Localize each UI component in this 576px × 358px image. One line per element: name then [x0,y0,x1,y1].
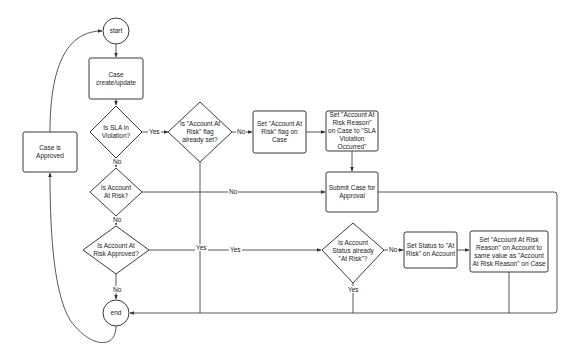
is-at-risk-approved-label: Is Account At Risk Approved? [93,238,139,262]
edge-label-status-yes: Yes [347,286,360,293]
set-flag-on-case-label: Set "Account At Risk" flag on Case [255,113,304,151]
edge-label-atrisk-no-down: No [112,216,122,223]
edge-label-approved-no: No [112,286,122,293]
case-create-update-label: Case create/update [91,60,141,97]
edge-label-flag-no: No [236,128,246,135]
edge-label-atrisk-no: No [228,188,238,195]
flowchart-canvas [0,0,576,358]
edge-label-status-no: No [388,246,398,253]
set-reason-on-account-label: Set "Account At Risk Reason" on Account … [472,233,546,270]
edge-label-approved-yes: Yes [229,246,242,253]
case-is-approved-label: Case is Approved [25,134,75,170]
edge-label-sla-yes: Yes [148,128,161,135]
start-label: start [103,25,129,37]
is-account-at-risk-label: Is Account At Risk? [99,178,133,206]
submit-for-approval-label: Submit Case for Approval [328,174,376,210]
flag-already-set-label: Is "Account At Risk" flag already set? [176,112,224,152]
set-reason-on-case-label: Set "Account At Risk Reason" on Case to … [328,112,376,150]
end-label: end [103,307,129,319]
edge-label-flag-yes: Yes [195,244,208,251]
edge-label-sla-no: No [112,158,122,165]
set-status-at-risk-label: Set Status to "At Risk" on Account [406,234,455,266]
account-status-label: Is Account Status already "At Risk"? [331,232,375,270]
sla-violation-label: Is SLA in Violation? [98,120,134,144]
